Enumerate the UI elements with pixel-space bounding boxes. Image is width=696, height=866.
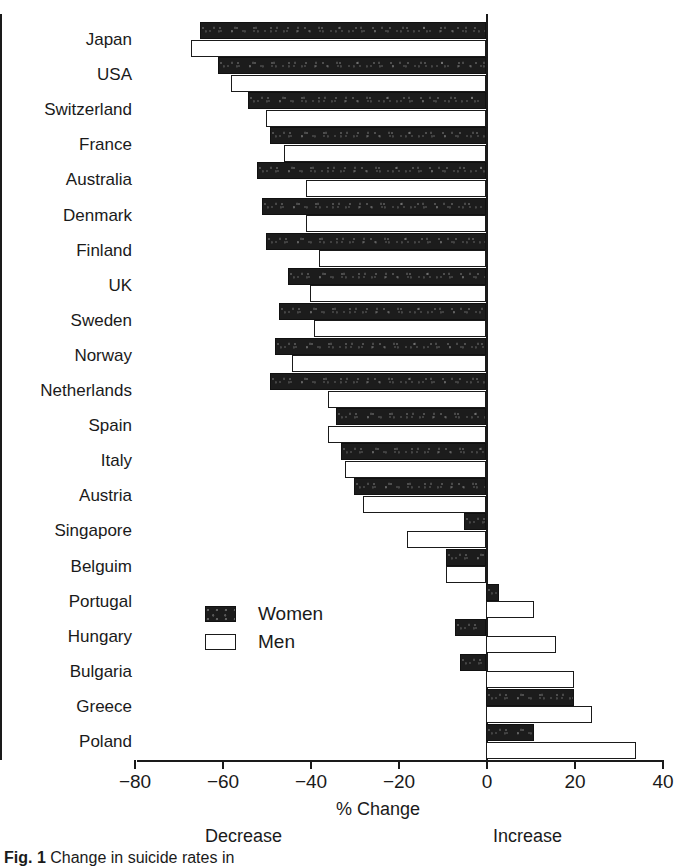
category-label: Australia: [2, 171, 132, 188]
category-label: Greece: [2, 698, 132, 715]
x-tick-label: 40: [633, 772, 693, 791]
bar-women: [486, 724, 534, 741]
legend-item-men: Men: [205, 628, 323, 656]
category-label: Netherlands: [2, 382, 132, 399]
bar-women: [218, 57, 486, 74]
bar-women: [270, 373, 486, 390]
x-tick: [662, 760, 664, 769]
bar-women: [257, 162, 486, 179]
figure-caption-text: Change in suicide rates in: [50, 849, 234, 866]
legend-label-women: Women: [258, 603, 323, 625]
category-label: Singapore: [2, 522, 132, 539]
bar-men: [266, 110, 486, 127]
bar-women: [460, 654, 486, 671]
bar-men: [314, 320, 486, 337]
category-label: Finland: [2, 242, 132, 259]
x-tick-label: −60: [193, 772, 253, 791]
bar-women: [248, 92, 486, 109]
category-label: Bulgaria: [2, 663, 132, 680]
x-tick-label: −40: [281, 772, 341, 791]
category-label: Portugal: [2, 593, 132, 610]
decrease-annotation: Decrease: [205, 826, 282, 847]
bar-men: [486, 671, 574, 688]
bar-women: [464, 513, 486, 530]
y-axis-line: [0, 14, 2, 760]
figure-number: Fig. 1: [4, 849, 46, 866]
x-tick: [310, 760, 312, 769]
bar-men: [284, 145, 486, 162]
category-label: Hungary: [2, 628, 132, 645]
bar-women: [354, 478, 486, 495]
category-label: France: [2, 136, 132, 153]
figure-chart: JapanUSASwitzerlandFranceAustraliaDenmar…: [0, 0, 696, 866]
legend-swatch-men-icon: [205, 634, 236, 650]
chart-legend: Women Men: [205, 600, 323, 656]
bar-women: [266, 233, 486, 250]
x-tick: [574, 760, 576, 769]
legend-label-men: Men: [258, 631, 295, 653]
bar-men: [486, 601, 534, 618]
category-label: Denmark: [2, 207, 132, 224]
category-label: Poland: [2, 733, 132, 750]
bar-men: [328, 391, 486, 408]
bar-women: [200, 22, 486, 39]
figure-caption: Fig. 1 Change in suicide rates in: [4, 849, 694, 866]
bar-men: [486, 706, 592, 723]
x-tick: [486, 760, 488, 769]
bar-women: [341, 443, 486, 460]
category-label: USA: [2, 66, 132, 83]
category-label: Spain: [2, 417, 132, 434]
bar-men: [319, 250, 486, 267]
bar-women: [279, 303, 486, 320]
bar-men: [231, 75, 486, 92]
bar-women: [455, 619, 486, 636]
category-label: Belguim: [2, 558, 132, 575]
x-tick-label: 20: [545, 772, 605, 791]
x-tick: [398, 760, 400, 769]
bar-men: [306, 180, 486, 197]
bar-men: [363, 496, 486, 513]
bar-women: [486, 584, 499, 601]
bar-men: [292, 355, 486, 372]
category-label: Japan: [2, 31, 132, 48]
increase-annotation: Increase: [493, 826, 562, 847]
bar-women: [262, 198, 486, 215]
bar-men: [486, 742, 636, 759]
bar-women: [275, 338, 486, 355]
x-tick-label: 0: [457, 772, 517, 791]
x-tick: [222, 760, 224, 769]
category-label: Austria: [2, 487, 132, 504]
legend-swatch-women-icon: [205, 606, 236, 622]
x-tick-label: −20: [369, 772, 429, 791]
category-axis-labels: JapanUSASwitzerlandFranceAustraliaDenmar…: [0, 0, 132, 866]
bar-men: [310, 285, 486, 302]
bar-women: [446, 549, 486, 566]
bar-women: [288, 268, 486, 285]
bar-men: [191, 40, 486, 57]
category-label: Sweden: [2, 312, 132, 329]
bar-women: [270, 127, 486, 144]
category-label: Italy: [2, 452, 132, 469]
bar-women: [486, 689, 574, 706]
category-label: Switzerland: [2, 101, 132, 118]
x-axis-title: % Change: [0, 799, 696, 820]
bar-women: [336, 408, 486, 425]
x-tick: [134, 760, 136, 769]
x-tick-label: −80: [105, 772, 165, 791]
legend-item-women: Women: [205, 600, 323, 628]
category-label: UK: [2, 277, 132, 294]
bar-men: [306, 215, 486, 232]
bar-men: [446, 566, 486, 583]
bar-men: [407, 531, 486, 548]
bar-men: [345, 461, 486, 478]
bar-men: [328, 426, 486, 443]
x-axis-line: [137, 760, 664, 762]
bar-men: [486, 636, 556, 653]
category-label: Norway: [2, 347, 132, 364]
